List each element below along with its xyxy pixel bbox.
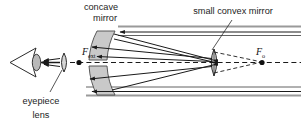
eye-symbol xyxy=(10,48,41,77)
convex-mirror-label: small convex mirror xyxy=(193,6,273,16)
focus-objective-dot xyxy=(259,60,264,65)
exit-beam-to-eye xyxy=(41,59,60,67)
eyepiece-label-line1: eyepiece xyxy=(23,96,60,106)
focus-external-dot xyxy=(76,60,81,65)
svg-text:o: o xyxy=(262,52,265,59)
svg-text:ext: ext xyxy=(88,52,96,59)
eyepiece-label-line2: lens xyxy=(33,110,50,120)
telescope-ray-diagram: concave mirror small convex mirror eyepi… xyxy=(0,0,301,126)
focus-objective-label: F o xyxy=(255,46,265,59)
convex-mirror-leader-line xyxy=(212,20,232,50)
concave-mirror-label-line2: mirror xyxy=(93,13,117,23)
concave-mirror-label-line1: concave xyxy=(84,2,118,12)
eyepiece-leader-line xyxy=(50,70,62,92)
diagram-canvas: concave mirror small convex mirror eyepi… xyxy=(0,0,301,126)
eyepiece-lens xyxy=(62,53,67,72)
